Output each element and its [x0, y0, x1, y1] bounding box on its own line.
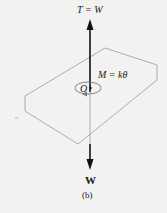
free-body-diagram: T = W M = kθ O W (b)	[0, 0, 167, 213]
moment-circle-icon	[75, 82, 101, 94]
tension-label: T = W	[77, 5, 102, 15]
weight-arrowhead-icon	[87, 159, 94, 170]
diagram-canvas	[0, 0, 167, 213]
origin-point	[89, 87, 91, 89]
figure-caption: (b)	[82, 191, 93, 200]
moment-label: M = kθ	[98, 70, 127, 80]
plate-outline	[25, 48, 157, 144]
weight-label: W	[85, 175, 96, 186]
tension-arrowhead-icon	[87, 19, 94, 30]
origin-label: O	[80, 84, 87, 94]
